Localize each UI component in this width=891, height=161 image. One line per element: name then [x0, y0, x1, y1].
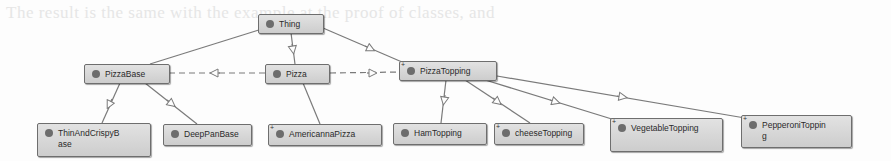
node-pizza[interactable]: Pizza — [265, 64, 330, 84]
class-dot-icon — [618, 124, 626, 132]
edge-pizzatopping-thing — [323, 28, 402, 62]
edge-thinandcrispybase-pizzabase — [102, 83, 120, 123]
node-vegetabletopping[interactable]: + VegetableTopping — [610, 118, 723, 152]
node-thing[interactable]: Thing — [258, 14, 324, 34]
class-dot-icon — [407, 67, 415, 75]
edge-pizzabase-thing — [150, 29, 262, 64]
class-dot-icon — [45, 129, 53, 137]
node-label: DeepPanBase — [184, 129, 245, 140]
node-label: ThinAndCrispyBase — [58, 128, 124, 150]
node-label: Pizza — [286, 69, 323, 80]
expand-plus-icon[interactable]: + — [612, 118, 616, 125]
node-label: HamTopping — [414, 128, 480, 139]
class-dot-icon — [749, 121, 757, 129]
expand-plus-icon[interactable]: + — [743, 115, 747, 122]
class-dot-icon — [276, 130, 284, 138]
node-label: cheeseTopping — [515, 128, 577, 139]
class-dot-icon — [401, 129, 409, 137]
class-dot-icon — [502, 129, 510, 137]
node-label: Thing — [279, 19, 317, 30]
node-pizzabase[interactable]: PizzaBase — [84, 64, 170, 84]
node-pizzatopping[interactable]: + PizzaTopping — [399, 61, 497, 81]
edge-americannapizza-pizza — [303, 83, 320, 124]
expand-plus-icon[interactable]: + — [496, 123, 500, 130]
node-label: PepperoniTopping — [762, 120, 829, 142]
edge-hamtopping-pizzatopping — [441, 80, 446, 123]
class-dot-icon — [171, 130, 179, 138]
node-thinandcrispybase[interactable]: ThinAndCrispyBase — [37, 123, 151, 157]
edge-pizza-pizzatopping — [330, 72, 399, 73]
expand-plus-icon[interactable]: + — [270, 124, 274, 131]
node-label: AmericannaPizza — [289, 129, 375, 140]
expand-plus-icon[interactable]: + — [401, 61, 405, 68]
node-cheesetopping[interactable]: + cheeseTopping — [494, 123, 584, 145]
class-dot-icon — [273, 70, 281, 78]
node-deeppanbase[interactable]: DeepPanBase — [163, 124, 252, 146]
node-hamtopping[interactable]: HamTopping — [393, 123, 487, 145]
node-label: PizzaBase — [105, 69, 163, 80]
node-label: VegetableTopping — [631, 123, 700, 134]
class-dot-icon — [266, 20, 274, 28]
node-label: PizzaTopping — [420, 66, 490, 77]
node-pepperonitopping[interactable]: + PepperoniTopping — [741, 115, 852, 148]
node-americannapizza[interactable]: + AmericannaPizza — [268, 124, 382, 146]
class-dot-icon — [92, 70, 100, 78]
